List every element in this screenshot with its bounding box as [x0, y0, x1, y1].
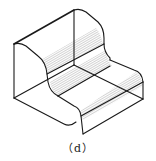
figure-caption: （d）: [0, 139, 156, 155]
stepped-block-drawing: [0, 0, 156, 161]
